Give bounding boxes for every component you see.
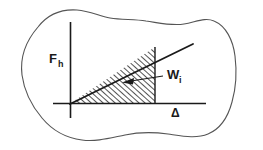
force-displacement-figure: F h W i Δ	[0, 0, 263, 150]
horizontal-axis-label: Δ	[171, 106, 180, 120]
figure-container: F h W i Δ	[0, 0, 263, 150]
work-increment-label-subscript: i	[179, 75, 182, 85]
vertical-axis-label-subscript: h	[58, 59, 64, 69]
hatched-work-area	[68, 44, 160, 106]
vertical-axis-label: F	[49, 51, 57, 66]
